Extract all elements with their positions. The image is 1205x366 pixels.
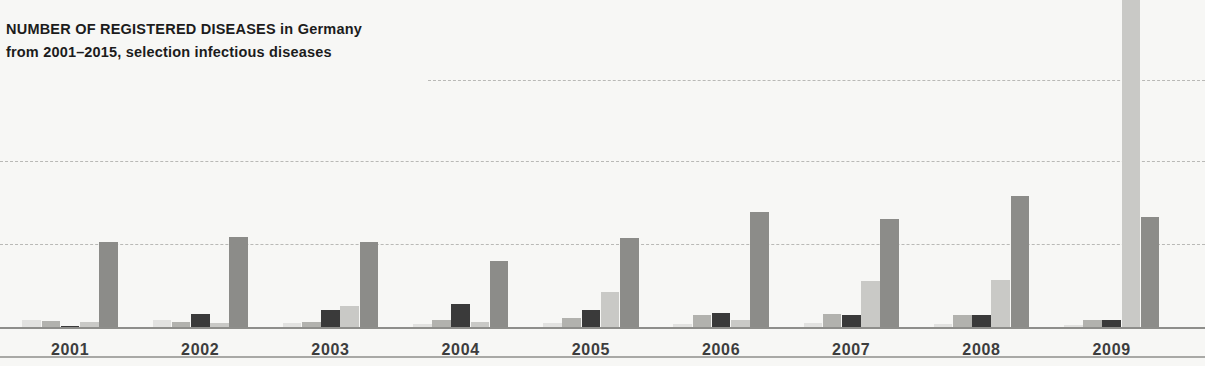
bar bbox=[99, 242, 118, 327]
bar bbox=[601, 292, 620, 327]
bar bbox=[953, 315, 972, 327]
bottom-rule bbox=[0, 356, 1205, 358]
chart-title-strong: NUMBER OF REGISTERED DISEASES bbox=[6, 21, 276, 37]
bar bbox=[1083, 320, 1102, 327]
bar bbox=[861, 281, 880, 327]
bar bbox=[451, 304, 470, 327]
bar bbox=[842, 315, 861, 327]
bar bbox=[620, 238, 639, 327]
bar bbox=[1141, 217, 1160, 327]
bar bbox=[1122, 0, 1141, 327]
bar bbox=[1011, 196, 1030, 327]
bar bbox=[972, 315, 991, 327]
bar bbox=[823, 314, 842, 327]
bar bbox=[712, 313, 731, 327]
bar bbox=[229, 237, 248, 327]
bar bbox=[360, 242, 379, 327]
bar bbox=[750, 212, 769, 327]
bar bbox=[432, 320, 451, 327]
bar bbox=[490, 261, 509, 327]
bar bbox=[321, 310, 340, 327]
chart-root: NUMBER OF REGISTERED DISEASES in Germany… bbox=[0, 0, 1205, 366]
bar bbox=[340, 306, 359, 327]
axis-baseline bbox=[0, 327, 1205, 329]
chart-subtitle: from 2001–2015, selection infectious dis… bbox=[6, 41, 362, 64]
bar bbox=[991, 280, 1010, 327]
bar bbox=[1102, 320, 1121, 327]
bar bbox=[191, 314, 210, 327]
bar bbox=[22, 320, 41, 327]
bar bbox=[731, 320, 750, 327]
bar bbox=[880, 219, 899, 327]
chart-title-tail: in Germany bbox=[276, 21, 362, 37]
bar bbox=[562, 318, 581, 327]
bar bbox=[582, 310, 601, 327]
bar bbox=[153, 320, 172, 327]
bar bbox=[693, 315, 712, 327]
title-block: NUMBER OF REGISTERED DISEASES in Germany… bbox=[6, 18, 362, 64]
chart-title: NUMBER OF REGISTERED DISEASES in Germany bbox=[6, 18, 362, 41]
